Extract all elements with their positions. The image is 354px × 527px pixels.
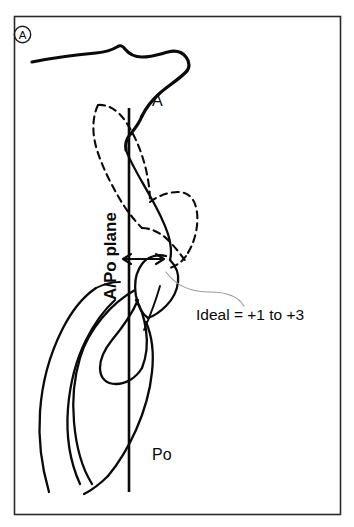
upper-incisor-root-curve: [126, 150, 171, 260]
a-po-plane-label: A/Po plane: [101, 212, 120, 300]
lower-alveolus-inner-loop-right: [136, 300, 147, 368]
figure-panel: A: [0, 0, 354, 527]
lower-incisor-root-axis: [144, 286, 160, 330]
panel-badge-label: A: [19, 29, 27, 41]
point-a-label: A: [152, 92, 163, 109]
mandibular-lower-border: [84, 476, 108, 494]
symphysis-anterior-curve: [73, 290, 135, 484]
point-po-label: Po: [152, 446, 172, 463]
ideal-value-label: Ideal = +1 to +3: [196, 306, 304, 323]
cephalometric-tracing-diagram: A: [0, 0, 354, 527]
outer-chin-contour: [39, 288, 96, 492]
maxilla-profile-curve: [32, 46, 189, 116]
panel-badge: A: [14, 26, 30, 42]
